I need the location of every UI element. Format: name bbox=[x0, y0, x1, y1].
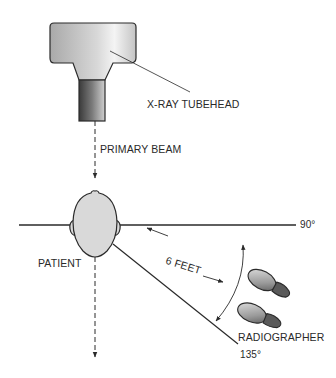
footprint-upper bbox=[245, 265, 294, 302]
patient-head bbox=[70, 191, 120, 257]
radiographer-footprints bbox=[235, 265, 294, 333]
radiographer-label: RADIOGRAPHER bbox=[238, 331, 324, 343]
distance-arrow-left bbox=[147, 228, 168, 236]
xray-tubehead bbox=[50, 23, 136, 121]
tubehead-label: X-RAY TUBEHEAD bbox=[147, 98, 239, 110]
radiation-safety-diagram bbox=[0, 0, 336, 378]
patient-label: PATIENT bbox=[38, 257, 81, 269]
distance-arrow-right bbox=[203, 276, 223, 282]
head-outline bbox=[73, 191, 117, 257]
tubehead-leader-line bbox=[110, 51, 190, 92]
tubehead-housing bbox=[50, 23, 136, 80]
primary-beam-label: PRIMARY BEAM bbox=[100, 143, 181, 155]
angle-135-label: 135° bbox=[240, 349, 261, 360]
footprint-lower bbox=[235, 299, 284, 333]
angle-90-label: 90° bbox=[300, 219, 315, 230]
tubehead-cone bbox=[79, 80, 105, 121]
